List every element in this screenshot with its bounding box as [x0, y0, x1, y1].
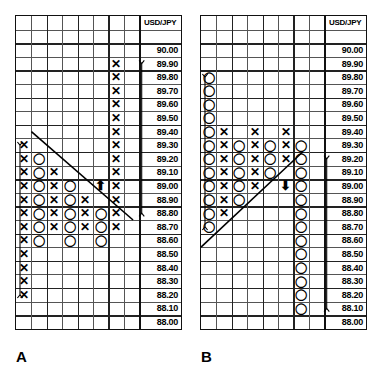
price-axis-label: 89.80 — [324, 70, 366, 84]
x-mark-cell: ✕ — [16, 138, 31, 152]
o-mark-cell: ◯ — [201, 111, 216, 125]
o-mark-cell: ◯ — [293, 193, 308, 207]
o-mark-cell: ◯ — [293, 166, 308, 180]
x-mark-cell: ✕ — [278, 125, 293, 139]
o-mark-cell: ◯ — [62, 234, 77, 248]
x-mark-cell: ✕ — [278, 138, 293, 152]
o-mark-cell: ◯ — [293, 234, 308, 248]
x-mark-cell: ✕ — [216, 206, 231, 220]
grid-line-vertical — [309, 16, 310, 329]
o-mark-cell: ◯ — [293, 152, 308, 166]
x-mark-cell: ✕ — [78, 220, 93, 234]
x-mark-cell: ✕ — [108, 125, 123, 139]
o-mark-cell: ◯ — [62, 193, 77, 207]
price-axis-label: 88.40 — [324, 261, 366, 275]
price-axis-label: 89.40 — [139, 125, 181, 139]
o-mark-cell: ◯ — [232, 193, 247, 207]
o-mark-cell: ◯ — [293, 261, 308, 275]
arrow-up-icon: ⬆ — [93, 179, 108, 193]
price-axis-label: 89.20 — [139, 152, 181, 166]
o-mark-cell: ◯ — [31, 179, 46, 193]
price-axis-label: 89.60 — [324, 98, 366, 112]
o-mark-cell: ◯ — [31, 166, 46, 180]
grid-line-vertical — [108, 16, 109, 329]
x-mark-cell: ✕ — [216, 138, 231, 152]
x-mark-cell: ✕ — [108, 138, 123, 152]
price-axis-label: 88.20 — [324, 288, 366, 302]
price-axis-label: 89.80 — [139, 70, 181, 84]
grid-line-vertical — [278, 16, 279, 329]
x-mark-cell: ✕ — [216, 179, 231, 193]
price-axis-label: 89.70 — [324, 84, 366, 98]
x-mark-cell: ✕ — [247, 125, 262, 139]
price-axis-label: 88.80 — [139, 206, 181, 220]
x-mark-cell: ✕ — [108, 179, 123, 193]
o-mark-cell: ◯ — [232, 166, 247, 180]
o-mark-cell: ◯ — [201, 84, 216, 98]
price-axis-label: 89.20 — [324, 152, 366, 166]
o-mark-cell: ◯ — [293, 138, 308, 152]
price-axis-label: 88.10 — [324, 302, 366, 316]
price-axis-label: 89.60 — [139, 98, 181, 112]
x-mark-cell: ✕ — [16, 220, 31, 234]
price-axis-label: 88.00 — [139, 315, 181, 329]
o-mark-cell: ◯ — [293, 288, 308, 302]
chart-header-label: USD/JPY — [324, 16, 366, 30]
price-axis-label: 89.10 — [324, 166, 366, 180]
price-axis-label: 88.60 — [139, 234, 181, 248]
panel-a-caption: A — [16, 348, 27, 365]
x-mark-cell: ✕ — [47, 166, 62, 180]
o-mark-cell: ◯ — [232, 179, 247, 193]
x-mark-cell: ✕ — [47, 179, 62, 193]
price-axis-label: 89.90 — [324, 57, 366, 71]
grid-line-vertical — [62, 16, 63, 329]
price-axis-label: 89.70 — [139, 84, 181, 98]
x-mark-cell: ✕ — [47, 220, 62, 234]
x-mark-cell: ✕ — [16, 274, 31, 288]
price-axis-label: 90.00 — [324, 43, 366, 57]
grid-line-horizontal — [16, 30, 181, 31]
x-mark-cell: ✕ — [47, 206, 62, 220]
price-axis-label: 90.00 — [139, 43, 181, 57]
o-mark-cell: ◯ — [201, 166, 216, 180]
price-axis-label: 89.40 — [324, 125, 366, 139]
x-mark-cell: ✕ — [16, 261, 31, 275]
x-mark-cell: ✕ — [16, 193, 31, 207]
x-mark-cell: ✕ — [108, 57, 123, 71]
x-mark-cell: ✕ — [216, 152, 231, 166]
x-mark-cell: ✕ — [108, 152, 123, 166]
x-mark-cell: ✕ — [108, 70, 123, 84]
o-mark-cell: ◯ — [293, 247, 308, 261]
price-axis-label: 89.90 — [139, 57, 181, 71]
x-mark-cell: ✕ — [16, 234, 31, 248]
price-axis-label: 88.30 — [139, 274, 181, 288]
x-mark-cell: ✕ — [16, 166, 31, 180]
price-axis-label: 89.50 — [324, 111, 366, 125]
grid-line-vertical — [78, 16, 79, 329]
x-mark-cell: ✕ — [16, 152, 31, 166]
x-mark-cell: ✕ — [16, 206, 31, 220]
x-mark-cell: ✕ — [78, 206, 93, 220]
o-mark-cell: ◯ — [201, 220, 216, 234]
o-mark-cell: ◯ — [201, 125, 216, 139]
o-mark-cell: ◯ — [62, 179, 77, 193]
o-mark-cell: ◯ — [93, 220, 108, 234]
chart-grid-frame: USD/JPY90.0089.9089.8089.7089.6089.5089.… — [15, 15, 182, 330]
grid-line-vertical — [293, 16, 294, 329]
grid-line-vertical — [232, 16, 233, 329]
price-axis-label: 89.30 — [324, 138, 366, 152]
o-mark-cell: ◯ — [31, 193, 46, 207]
o-mark-cell: ◯ — [31, 234, 46, 248]
price-axis-label: 88.70 — [324, 220, 366, 234]
panel-b-caption: B — [201, 348, 212, 365]
x-mark-cell: ✕ — [247, 179, 262, 193]
price-axis-label: 89.00 — [139, 179, 181, 193]
o-mark-cell: ◯ — [201, 70, 216, 84]
x-mark-cell: ✕ — [216, 166, 231, 180]
o-mark-cell: ◯ — [263, 152, 278, 166]
grid-line-vertical — [263, 16, 264, 329]
grid-line-vertical — [47, 16, 48, 329]
x-mark-cell: ✕ — [108, 84, 123, 98]
price-axis-label: 88.70 — [139, 220, 181, 234]
x-mark-cell: ✕ — [16, 179, 31, 193]
